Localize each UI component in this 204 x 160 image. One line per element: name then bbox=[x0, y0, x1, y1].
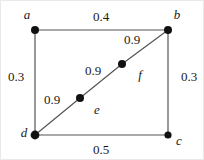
edge-ef bbox=[80, 64, 122, 98]
node-a bbox=[31, 26, 39, 34]
node-e bbox=[76, 94, 84, 102]
node-d bbox=[31, 131, 40, 140]
node-c bbox=[164, 131, 171, 138]
graph-canvas bbox=[1, 1, 204, 160]
edge-fb bbox=[122, 30, 168, 64]
edge-de bbox=[35, 98, 80, 135]
edge-layer bbox=[35, 30, 168, 135]
node-f bbox=[118, 60, 126, 68]
node-b bbox=[164, 26, 172, 34]
graph-diagram: 0.40.30.30.50.90.90.9abcdef bbox=[0, 0, 204, 160]
